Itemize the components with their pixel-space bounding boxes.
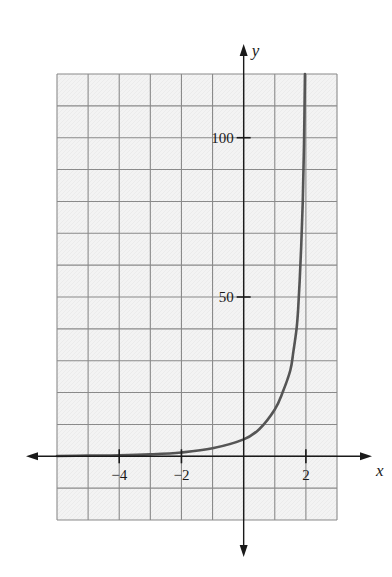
- y-axis-label: y: [250, 41, 260, 60]
- x-axis-label: x: [375, 461, 384, 480]
- y-tick-label: 50: [219, 289, 234, 305]
- y-axis-up-arrow-icon: [240, 44, 248, 56]
- x-tick-label: −4: [111, 467, 127, 483]
- y-axis-down-arrow-icon: [240, 545, 248, 557]
- x-axis-right-arrow-icon: [360, 452, 372, 460]
- x-tick-label: −2: [173, 467, 189, 483]
- x-axis-left-arrow-icon: [26, 452, 38, 460]
- y-tick-label: 100: [211, 130, 234, 146]
- chart-plot: xy−4−2250100: [0, 0, 392, 577]
- x-tick-label: 2: [302, 467, 310, 483]
